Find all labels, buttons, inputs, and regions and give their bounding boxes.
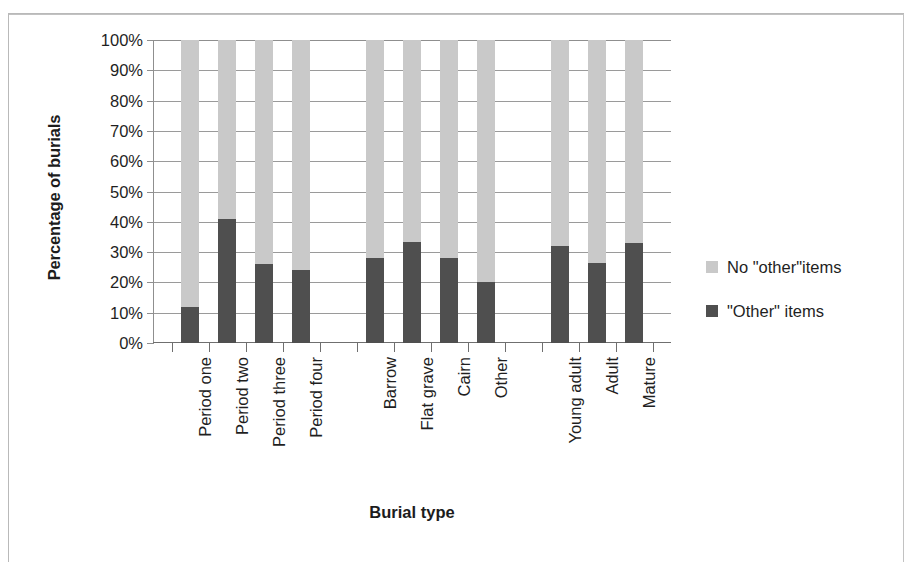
- x-tick-mark: [616, 343, 617, 352]
- x-tick-mark: [579, 343, 580, 352]
- x-tick-mark: [320, 343, 321, 352]
- x-tick-label-text: Other: [492, 357, 511, 398]
- bar-segment-no-other-items: [255, 40, 273, 264]
- x-tick-mark: [172, 343, 173, 352]
- x-tick-mark: [283, 343, 284, 352]
- column-slot: Period three: [246, 40, 283, 343]
- x-tick-label-text: Cairn: [455, 357, 474, 396]
- legend-item[interactable]: No "other"items: [706, 252, 841, 282]
- column-slot: Flat grave: [394, 40, 431, 343]
- y-tick-label: 10%: [63, 303, 143, 322]
- column-slot: Young adult: [542, 40, 579, 343]
- column-slot: Other: [468, 40, 505, 343]
- bar-segment-no-other-items: [477, 40, 495, 282]
- y-tick-mark: [147, 252, 154, 253]
- legend-label: No "other"items: [727, 258, 841, 277]
- x-tick-label-text: Mature: [640, 357, 659, 408]
- legend-swatch-light-icon: [706, 261, 718, 273]
- y-tick-mark: [147, 343, 154, 344]
- y-tick-label: 70%: [63, 121, 143, 140]
- bar-stack: [366, 40, 384, 343]
- y-tick-mark: [147, 313, 154, 314]
- chart-legend: No "other"items"Other" items: [706, 252, 841, 340]
- x-tick-label-text: Barrow: [381, 357, 400, 409]
- y-tick-label: 20%: [63, 273, 143, 292]
- bar-segment-no-other-items: [292, 40, 310, 270]
- x-tick-mark: [357, 343, 358, 352]
- bar-segment-no-other-items: [403, 40, 421, 241]
- plot-area: 0%10%20%30%40%50%60%70%80%90%100% Period…: [153, 40, 671, 343]
- x-tick-mark: [468, 343, 469, 352]
- bar-stack: [477, 40, 495, 343]
- bar-segment-no-other-items: [551, 40, 569, 246]
- bar-stack: [625, 40, 643, 343]
- column-slot: Period one: [172, 40, 209, 343]
- legend-label: "Other" items: [727, 302, 824, 321]
- column-slot: Period two: [209, 40, 246, 343]
- x-tick-mark: [246, 343, 247, 352]
- bar-segment-no-other-items: [366, 40, 384, 258]
- y-tick-label: 60%: [63, 152, 143, 171]
- legend-item[interactable]: "Other" items: [706, 296, 841, 326]
- y-tick-label: 100%: [63, 31, 143, 50]
- y-tick-mark: [147, 131, 154, 132]
- y-axis-title: Percentage of burials: [45, 48, 64, 348]
- figure-chart-burials: Percentage of burials 0%10%20%30%40%50%6…: [0, 0, 914, 562]
- x-tick-label-text: Period one: [196, 357, 215, 437]
- column-slot: Barrow: [357, 40, 394, 343]
- column-slot: Mature: [616, 40, 653, 343]
- y-tick-mark: [147, 222, 154, 223]
- x-tick-label-text: Adult: [603, 357, 622, 395]
- x-tick-mark: [209, 343, 210, 352]
- column-slot: Period four: [283, 40, 320, 343]
- bar-segment-no-other-items: [625, 40, 643, 243]
- y-tick-mark: [147, 70, 154, 71]
- x-tick-label-text: Flat grave: [418, 357, 437, 430]
- x-tick-mark: [431, 343, 432, 352]
- bar-segment-no-other-items: [440, 40, 458, 258]
- bar-segment-no-other-items: [181, 40, 199, 307]
- y-tick-label: 80%: [63, 91, 143, 110]
- y-tick-mark: [147, 101, 154, 102]
- column-slot-empty: [505, 40, 542, 343]
- y-tick-label: 90%: [63, 61, 143, 80]
- y-tick-label: 30%: [63, 243, 143, 262]
- chart-border-right: [903, 14, 904, 562]
- y-tick-mark: [147, 192, 154, 193]
- x-tick-mark: [542, 343, 543, 352]
- y-tick-label: 50%: [63, 182, 143, 201]
- legend-swatch-dark-icon: [706, 305, 718, 317]
- x-tick-label-text: Young adult: [566, 357, 585, 444]
- x-axis-title: Burial type: [153, 503, 671, 522]
- column-slot-empty: [320, 40, 357, 343]
- y-tick-label: 0%: [63, 334, 143, 353]
- column-slot-empty: [653, 40, 690, 343]
- y-tick-label: 40%: [63, 212, 143, 231]
- x-tick-label-text: Period three: [270, 357, 289, 447]
- bar-stack: [440, 40, 458, 343]
- bar-segment-no-other-items: [218, 40, 236, 219]
- column-slot: Adult: [579, 40, 616, 343]
- y-tick-mark: [147, 40, 154, 41]
- y-tick-mark: [147, 161, 154, 162]
- bar-stack: [588, 40, 606, 343]
- bar-segment-no-other-items: [588, 40, 606, 263]
- x-tick-mark: [394, 343, 395, 352]
- y-tick-mark: [147, 282, 154, 283]
- x-tick-mark: [505, 343, 506, 352]
- x-tick-mark: [653, 343, 654, 352]
- x-tick-label-text: Period four: [307, 357, 326, 438]
- column-slot: Cairn: [431, 40, 468, 343]
- x-tick-label-text: Period two: [233, 357, 252, 435]
